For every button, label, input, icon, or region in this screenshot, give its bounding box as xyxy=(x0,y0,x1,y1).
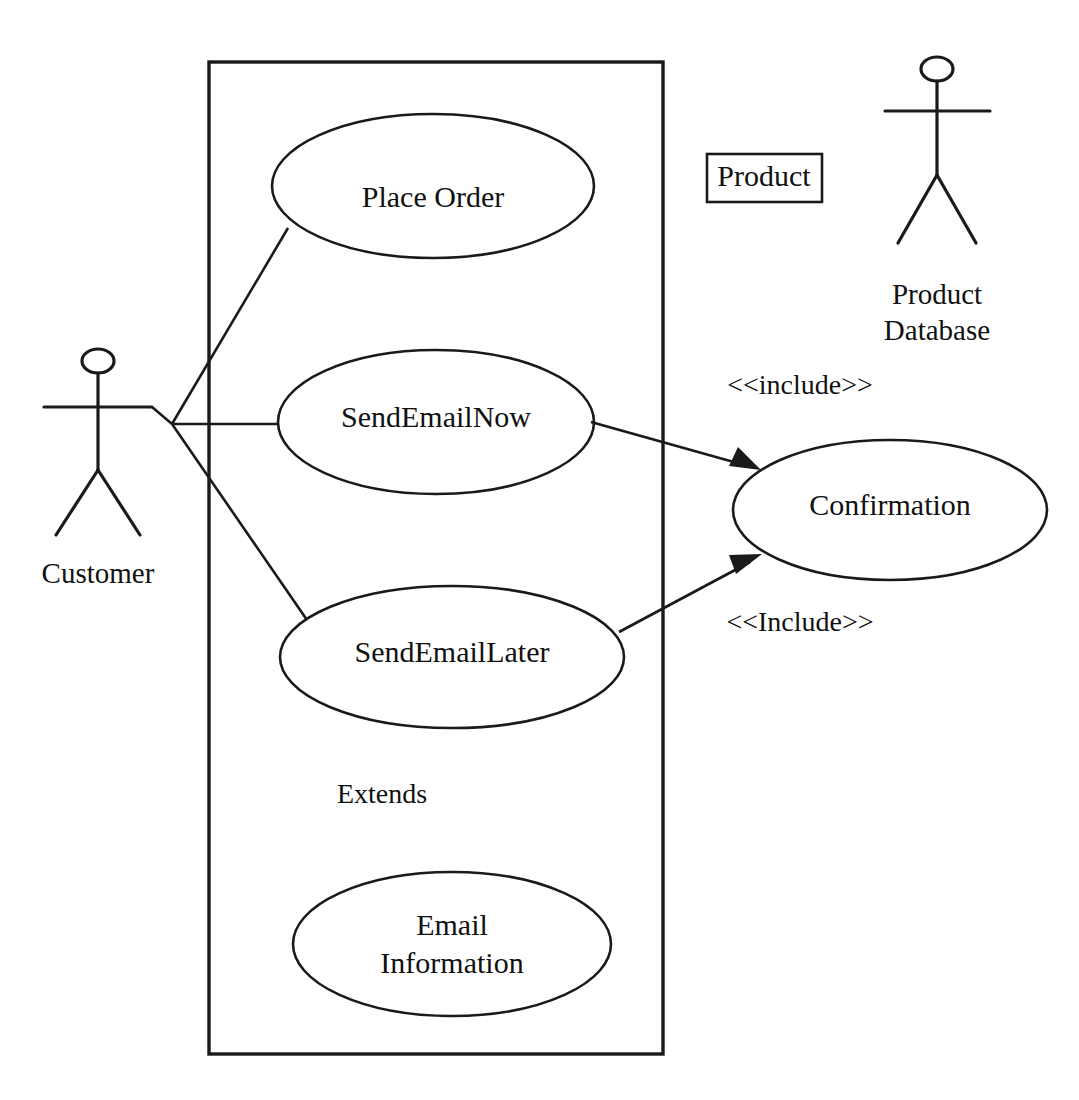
actor-head-icon xyxy=(921,57,953,81)
association-customer-send-email-later[interactable] xyxy=(172,424,307,620)
use-case-diagram-canvas: Customer Product Database Product xyxy=(0,0,1079,1100)
actor-product-database-label-line1: Product xyxy=(892,278,982,310)
product-box[interactable]: Product xyxy=(707,154,822,202)
actor-head-icon xyxy=(82,349,114,373)
use-case-place-order[interactable]: Place Order xyxy=(272,114,594,258)
include-label-lower: <<Include>> xyxy=(726,606,873,637)
use-case-email-information-label-line1: Email xyxy=(416,908,488,941)
use-case-email-information-label-line2: Information xyxy=(380,946,523,979)
association-customer-place-order[interactable] xyxy=(172,228,288,424)
actor-product-database[interactable]: Product Database xyxy=(884,57,990,346)
diagram-surface: Customer Product Database Product xyxy=(0,0,1079,1100)
include-arrow-line xyxy=(591,422,748,466)
association-actor-stub[interactable] xyxy=(152,407,172,424)
actor-left-leg-icon xyxy=(56,470,98,535)
actor-product-database-label-line2: Database xyxy=(884,314,990,346)
actor-right-leg-icon xyxy=(937,175,976,243)
use-case-email-information[interactable]: Email Information xyxy=(293,872,611,1016)
actor-customer[interactable]: Customer xyxy=(42,349,155,589)
actor-right-leg-icon xyxy=(98,470,140,535)
actor-customer-label: Customer xyxy=(42,557,155,589)
use-case-confirmation-label: Confirmation xyxy=(809,488,971,521)
use-case-confirmation[interactable]: Confirmation xyxy=(733,440,1047,580)
include-label-upper: <<include>> xyxy=(727,369,873,400)
include-arrow-head-icon xyxy=(729,447,761,470)
actor-left-leg-icon xyxy=(898,175,937,243)
use-case-send-email-now-label: SendEmailNow xyxy=(341,400,531,433)
use-case-send-email-later-label: SendEmailLater xyxy=(355,635,550,668)
use-case-send-email-now[interactable]: SendEmailNow xyxy=(278,350,594,494)
use-case-place-order-label: Place Order xyxy=(362,180,504,213)
extends-note-label: Extends xyxy=(337,778,427,809)
use-case-send-email-later[interactable]: SendEmailLater xyxy=(280,586,624,728)
product-box-label: Product xyxy=(717,159,811,192)
use-case-ellipse xyxy=(293,872,611,1016)
